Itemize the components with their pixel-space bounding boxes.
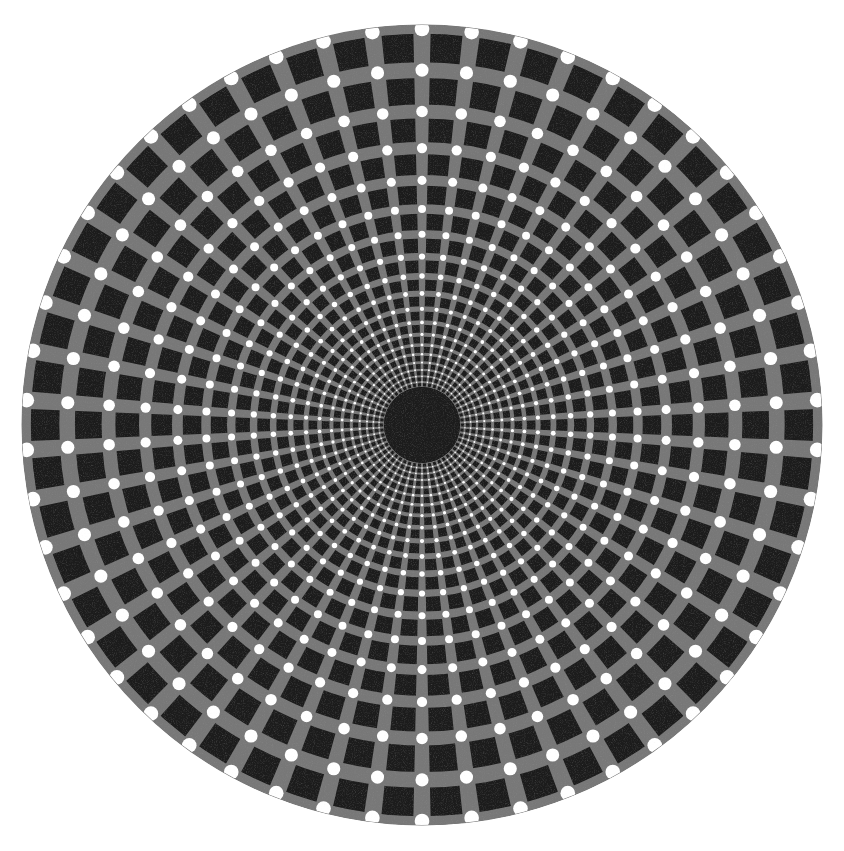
intersection-dot (391, 369, 393, 371)
intersection-dot (549, 529, 555, 535)
intersection-dot (491, 419, 494, 422)
intersection-dot (289, 314, 295, 320)
intersection-dot (770, 396, 783, 409)
intersection-dot (172, 677, 185, 690)
intersection-dot (442, 387, 444, 389)
intersection-dot (506, 395, 509, 398)
intersection-dot (463, 416, 465, 418)
intersection-dot (462, 437, 464, 439)
intersection-dot (61, 441, 74, 454)
intersection-dot (531, 352, 536, 357)
intersection-dot (396, 389, 398, 391)
intersection-dot (359, 428, 361, 430)
intersection-dot (463, 531, 467, 535)
intersection-dot (468, 488, 471, 491)
intersection-dot (462, 411, 464, 413)
intersection-dot (330, 349, 334, 353)
intersection-dot (409, 377, 411, 379)
intersection-dot (395, 522, 399, 526)
intersection-dot (509, 349, 513, 353)
intersection-dot (453, 379, 455, 381)
intersection-dot (377, 531, 381, 535)
intersection-dot (480, 386, 483, 389)
intersection-dot (567, 144, 579, 156)
intersection-dot (464, 378, 466, 380)
intersection-dot (419, 590, 425, 596)
intersection-dot (561, 618, 570, 627)
intersection-dot (359, 475, 362, 478)
intersection-dot (437, 464, 439, 466)
intersection-dot (285, 748, 298, 761)
intersection-dot (584, 559, 592, 567)
intersection-dot (290, 447, 295, 452)
intersection-dot (202, 407, 210, 415)
intersection-dot (489, 244, 496, 251)
intersection-dot (600, 480, 607, 487)
intersection-dot (356, 307, 361, 312)
intersection-dot (591, 340, 598, 347)
intersection-dot (330, 327, 335, 332)
intersection-dot (213, 354, 221, 362)
intersection-dot (207, 131, 220, 144)
intersection-dot (458, 447, 460, 449)
intersection-dot (568, 413, 574, 419)
intersection-dot (475, 379, 478, 382)
intersection-dot (360, 436, 362, 438)
intersection-dot (382, 145, 392, 155)
intersection-dot (545, 342, 551, 348)
intersection-dot (764, 485, 777, 498)
intersection-dot (398, 336, 401, 339)
intersection-dot (360, 506, 364, 510)
intersection-dot (729, 400, 741, 412)
intersection-dot (634, 435, 642, 443)
intersection-dot (353, 446, 356, 449)
intersection-dot (474, 497, 477, 500)
intersection-dot (306, 445, 310, 449)
intersection-dot (420, 291, 425, 296)
intersection-dot (196, 525, 205, 534)
intersection-dot (411, 466, 413, 468)
intersection-dot (342, 316, 347, 321)
intersection-dot (378, 422, 380, 424)
intersection-dot (561, 468, 567, 474)
intersection-dot (689, 192, 702, 205)
intersection-dot (380, 450, 382, 452)
intersection-dot (445, 381, 447, 383)
intersection-dot (591, 503, 598, 510)
intersection-dot (502, 462, 505, 465)
intersection-dot (265, 694, 277, 706)
intersection-dot (418, 637, 426, 645)
intersection-dot (340, 338, 344, 342)
intersection-dot (467, 439, 469, 441)
intersection-dot (387, 178, 396, 187)
intersection-dot (438, 355, 441, 358)
intersection-dot (373, 433, 375, 435)
intersection-dot (141, 437, 151, 447)
intersection-dot (494, 116, 506, 128)
intersection-dot (440, 346, 443, 349)
intersection-dot (327, 254, 334, 261)
intersection-dot (358, 489, 361, 492)
intersection-dot (232, 166, 244, 178)
intersection-dot (476, 525, 480, 529)
intersection-dot (257, 524, 264, 531)
intersection-dot (252, 559, 260, 567)
intersection-dot (309, 352, 314, 357)
intersection-dot (314, 232, 322, 240)
intersection-dot (379, 366, 382, 369)
intersection-dot (383, 464, 385, 466)
intersection-dot (551, 431, 556, 436)
intersection-dot (388, 397, 390, 399)
intersection-dot (415, 64, 428, 77)
intersection-dot (412, 354, 415, 357)
intersection-dot (436, 484, 438, 486)
intersection-dot (549, 282, 556, 289)
intersection-dot (367, 497, 370, 500)
intersection-dot (500, 274, 506, 280)
intersection-dot (580, 524, 587, 531)
intersection-dot (257, 319, 264, 326)
intersection-dot (358, 357, 361, 360)
intersection-dot (392, 393, 394, 395)
intersection-dot (421, 467, 423, 469)
intersection-dot (351, 366, 354, 369)
